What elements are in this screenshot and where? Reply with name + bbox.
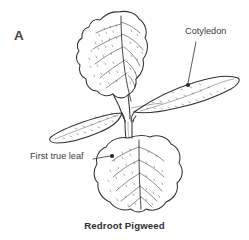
upper-leaf-midrib [121, 16, 131, 101]
label-first-true-leaf: First true leaf [30, 152, 84, 161]
lower-leaf-stipple [108, 149, 163, 207]
lower-leaf-veins-right [139, 147, 164, 207]
cotyledon-leader-dot [186, 83, 190, 87]
left-cotyledon [50, 113, 122, 143]
first-true-leaf-leader-line [93, 156, 110, 159]
right-cotyledon [134, 76, 239, 113]
upper-leaf-veins-left [93, 24, 127, 88]
lower-true-leaf [94, 136, 182, 212]
left-cotyledon-vein [55, 115, 118, 139]
first-true-leaf-leader-dot [110, 154, 114, 158]
stem [125, 120, 132, 138]
annotation-leaders [93, 42, 196, 159]
botanical-figure: A Cotyledon First true leaf Redroot Pigw… [0, 0, 249, 240]
panel-letter: A [14, 29, 24, 43]
label-cotyledon: Cotyledon [185, 27, 226, 36]
upper-true-leaf [76, 11, 147, 101]
upper-leaf-outline [76, 11, 147, 98]
upper-leaf-veins-right [121, 22, 143, 87]
cotyledon-leader-line [188, 42, 196, 83]
upper-leaf-stipple [89, 25, 143, 85]
lower-leaf-veins-left [112, 147, 141, 207]
figure-caption: Redroot Pigweed [0, 221, 249, 231]
